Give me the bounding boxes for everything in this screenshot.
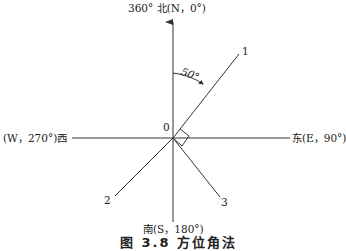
line-2-label: 2 [104,194,111,206]
line-1-label: 1 [242,45,249,57]
origin-label: 0 [163,121,170,133]
east-label: 东(E，90°) [292,132,346,144]
line-3 [173,138,220,197]
west-label: (W，270°)西 [3,132,67,144]
line-3-label: 3 [221,196,228,208]
line-2 [115,138,173,196]
north-label: 360° 北(N，0°) [128,2,206,14]
figure-caption: 图 3.8 方位角法 [120,232,237,251]
